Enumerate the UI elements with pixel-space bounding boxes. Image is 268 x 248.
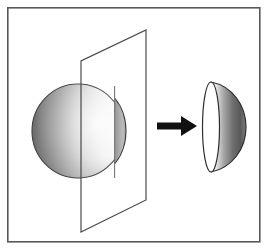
- hemisphere-flat-face: [203, 82, 220, 172]
- diagram-canvas: Sphere cut by a plane yielding a hemisph…: [0, 0, 268, 248]
- sphere-plane-hemisphere-figure: Sphere cut by a plane yielding a hemisph…: [0, 0, 268, 248]
- sphere: [32, 84, 124, 178]
- sphere-limb-shading: [32, 84, 124, 178]
